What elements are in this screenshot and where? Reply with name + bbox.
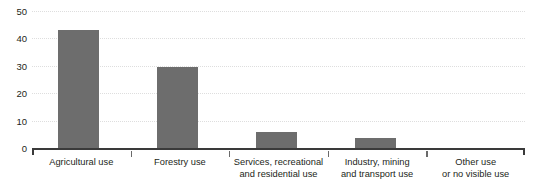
ytick-text: 30 <box>16 61 27 72</box>
ytick-label-30: 30 <box>0 62 27 72</box>
ytick-label-0: 0 <box>0 144 27 154</box>
ytick-label-10: 10 <box>0 117 27 127</box>
bar-chart: 50 40 30 20 10 0 Agricultural use Forest… <box>0 0 537 184</box>
category-label-services-recreational-residential-use: Services, recreational and residential u… <box>226 157 331 180</box>
category-label-other-use-or-no-visible-use: Other use or no visible use <box>426 157 525 180</box>
bar-services-recreational-residential-use <box>256 132 297 148</box>
ytick-text: 40 <box>16 33 27 44</box>
ytick-label-50: 50 <box>0 7 27 17</box>
bar-industry-mining-transport-use <box>355 138 396 148</box>
gridline-10 <box>32 121 525 122</box>
ytick-label-20: 20 <box>0 89 27 99</box>
category-label-forestry-use: Forestry use <box>131 157 230 169</box>
category-label-agricultural-use: Agricultural use <box>32 157 131 169</box>
ytick-label-40: 40 <box>0 34 27 44</box>
gridline-30 <box>32 66 525 67</box>
gridline-40 <box>32 38 525 39</box>
ytick-text: 50 <box>16 6 27 17</box>
x-axis-left-cap <box>32 148 34 155</box>
category-label-industry-mining-transport-use: Industry, mining and transport use <box>328 157 427 180</box>
ytick-text: 10 <box>16 116 27 127</box>
ytick-text: 0 <box>22 143 27 154</box>
gridline-50 <box>32 11 525 12</box>
ytick-text: 20 <box>16 88 27 99</box>
gridline-20 <box>32 93 525 94</box>
x-axis-line <box>32 148 525 150</box>
bar-agricultural-use <box>58 30 99 148</box>
x-axis-right-cap <box>523 148 525 155</box>
bar-forestry-use <box>157 67 198 148</box>
